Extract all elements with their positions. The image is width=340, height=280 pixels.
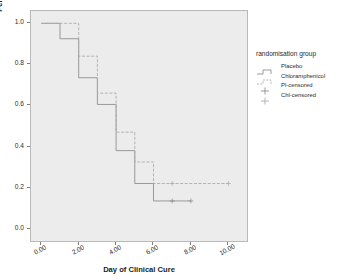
censor-marker — [188, 199, 193, 204]
x-tick-mark — [115, 242, 116, 245]
censor-marker — [226, 181, 231, 186]
y-tick-label: 0.4 — [0, 142, 24, 149]
legend-label: Pl-censored — [281, 82, 312, 88]
y-tick-label: 0.0 — [0, 224, 24, 231]
y-tick-label: 0.8 — [0, 59, 24, 66]
x-axis-label: Day of Clinical Cure — [30, 265, 248, 274]
legend-swatch-step-dashed-icon — [256, 72, 278, 80]
legend-title: randomisation group — [256, 50, 340, 57]
x-tick-mark — [227, 242, 228, 245]
y-tick-label: 0.2 — [0, 183, 24, 190]
plot-area — [31, 11, 247, 241]
legend-item: Pl-censored — [256, 81, 340, 89]
series-chloramphenicol — [41, 23, 230, 186]
x-tick-mark — [40, 242, 41, 245]
x-tick-mark — [190, 242, 191, 245]
legend-swatch-step-solid-icon — [256, 62, 278, 70]
kaplan-meier-chart: Percentage with Conjunctivitis 0.00.20.4… — [0, 0, 340, 280]
y-tick-label: 1.0 — [0, 18, 24, 25]
series-placebo — [41, 23, 193, 203]
legend-item: Placebo — [256, 62, 340, 70]
legend-item: Chloramphenicol — [256, 72, 340, 80]
legend-item: Chl-censored — [256, 91, 340, 99]
censor-marker — [170, 199, 175, 204]
legend-label: Chl-censored — [281, 92, 316, 98]
x-tick-mark — [152, 242, 153, 245]
legend-swatch-plus-icon — [256, 81, 278, 89]
x-tick-mark — [78, 242, 79, 245]
plot-panel — [30, 10, 248, 242]
legend-label: Placebo — [281, 63, 302, 69]
legend-item-list: PlaceboChloramphenicolPl-censoredChl-cen… — [256, 62, 340, 99]
censor-marker — [170, 181, 175, 186]
legend-label: Chloramphenicol — [281, 73, 325, 79]
legend: randomisation group PlaceboChloramphenic… — [256, 50, 340, 100]
y-tick-label: 0.6 — [0, 100, 24, 107]
legend-swatch-plus-icon — [256, 91, 278, 99]
